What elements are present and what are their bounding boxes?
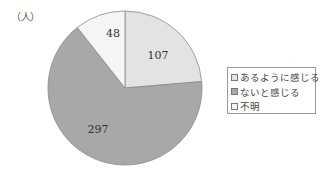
legend-item-feel-absent: ないと感じる bbox=[231, 85, 315, 100]
legend-swatch-icon bbox=[231, 88, 238, 95]
chart-legend: あるように感じる ないと感じる 不明 bbox=[227, 67, 316, 114]
slice-label-feel-absent: 297 bbox=[88, 123, 109, 136]
legend-item-feel-present: あるように感じる bbox=[231, 70, 315, 85]
legend-swatch-icon bbox=[231, 74, 238, 81]
legend-swatch-icon bbox=[231, 103, 238, 110]
slice-label-unknown: 48 bbox=[106, 27, 120, 40]
legend-label: 不明 bbox=[240, 99, 260, 113]
legend-label: ないと感じる bbox=[240, 85, 300, 99]
slice-label-feel-present: 107 bbox=[148, 49, 169, 62]
pie-slices bbox=[48, 11, 202, 165]
legend-label: あるように感じる bbox=[240, 70, 320, 84]
legend-item-unknown: 不明 bbox=[231, 99, 315, 114]
